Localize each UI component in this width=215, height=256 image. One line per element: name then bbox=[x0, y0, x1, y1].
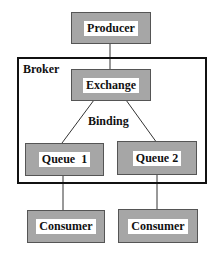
queue1-node: Queue 1 bbox=[25, 143, 104, 176]
binding-label: Binding bbox=[88, 115, 129, 128]
producer-label: Producer bbox=[84, 21, 138, 36]
consumer1-node: Consumer bbox=[27, 210, 105, 243]
queue2-label: Queue 2 bbox=[133, 151, 181, 166]
exchange-label: Exchange bbox=[83, 78, 139, 93]
queue2-node: Queue 2 bbox=[117, 141, 197, 175]
broker-label: Broker bbox=[23, 63, 59, 76]
consumer2-node: Consumer bbox=[118, 209, 198, 243]
queue1-label: Queue 1 bbox=[39, 152, 90, 167]
exchange-node: Exchange bbox=[71, 69, 151, 101]
consumer1-label: Consumer bbox=[36, 219, 95, 234]
producer-node: Producer bbox=[71, 12, 151, 44]
consumer2-label: Consumer bbox=[128, 219, 187, 234]
